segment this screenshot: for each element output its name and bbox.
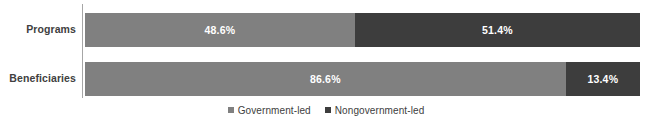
square-swatch-icon — [228, 107, 234, 113]
bar-row-beneficiaries: 86.6% 13.4% — [85, 62, 640, 96]
legend-item-nongovernment-led[interactable]: Nongovernment-led — [325, 105, 425, 116]
square-swatch-icon — [325, 107, 331, 113]
category-axis-line — [82, 4, 83, 98]
bar-segment-programs-government-led[interactable]: 48.6% — [85, 13, 355, 47]
bar-segment-beneficiaries-nongovernment-led[interactable]: 13.4% — [566, 62, 640, 96]
legend-item-government-led[interactable]: Government-led — [228, 105, 311, 116]
legend-label: Government-led — [238, 105, 311, 116]
bar-segment-programs-nongovernment-led[interactable]: 51.4% — [355, 13, 640, 47]
category-label-beneficiaries: Beneficiaries — [2, 72, 76, 84]
category-label-slot-1: Beneficiaries — [0, 72, 76, 86]
bar-value-label: 51.4% — [482, 24, 513, 36]
bar-value-label: 48.6% — [204, 24, 235, 36]
bar-row-programs: 48.6% 51.4% — [85, 13, 640, 47]
legend-label: Nongovernment-led — [335, 105, 425, 116]
bar-value-label: 13.4% — [587, 73, 618, 85]
bar-segment-beneficiaries-government-led[interactable]: 86.6% — [85, 62, 566, 96]
plot-area: Programs 48.6% 51.4% Beneficiaries 86.6%… — [0, 0, 652, 100]
bar-value-label: 86.6% — [310, 73, 341, 85]
chart-legend: Government-led Nongovernment-led — [0, 100, 652, 120]
stacked-bar-chart: Programs 48.6% 51.4% Beneficiaries 86.6%… — [0, 0, 652, 120]
category-label-slot-0: Programs — [0, 23, 76, 37]
category-label-programs: Programs — [2, 23, 76, 35]
